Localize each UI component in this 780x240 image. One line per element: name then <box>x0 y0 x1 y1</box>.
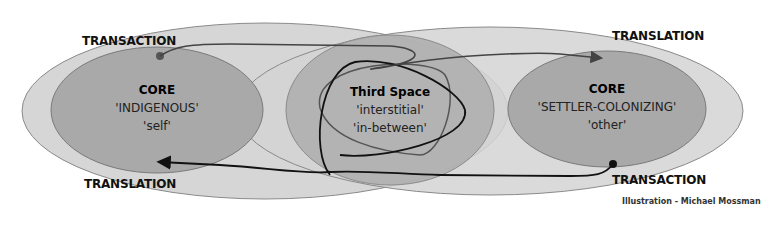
right-core-line2: 'other' <box>588 116 627 134</box>
label-translation-bottom-left: TRANSLATION <box>84 177 176 191</box>
illustration-credit: Illustration - Michael Mossman <box>622 197 761 206</box>
third-space-title: Third Space <box>350 83 430 101</box>
left-core-line2: 'self' <box>143 117 171 135</box>
third-space-line1: 'interstitial' <box>356 101 424 119</box>
left-core-text: CORE 'INDIGENOUS' 'self' <box>107 81 207 135</box>
right-core-line1: 'SETTLER-COLONIZING' <box>538 98 677 116</box>
label-translation-top-right: TRANSLATION <box>612 29 704 43</box>
label-transaction-bottom-right: TRANSACTION <box>612 173 706 187</box>
right-core-title: CORE <box>589 80 625 98</box>
right-core-text: CORE 'SETTLER-COLONIZING' 'other' <box>537 80 677 134</box>
third-space-line2: 'in-between' <box>353 119 427 137</box>
label-transaction-top-left: TRANSACTION <box>82 34 176 48</box>
left-core-title: CORE <box>139 81 175 99</box>
third-space-text: Third Space 'interstitial' 'in-between' <box>340 83 440 137</box>
left-core-line1: 'INDIGENOUS' <box>115 99 199 117</box>
